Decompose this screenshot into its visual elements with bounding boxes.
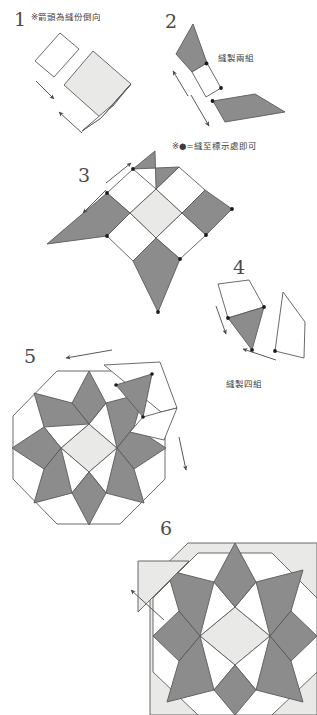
arrow-press-up	[59, 112, 82, 133]
patch-white-quad-right	[275, 292, 305, 358]
arrow-press-up-left	[243, 349, 276, 360]
step-number-5: 5	[24, 347, 36, 366]
step-number-3: 3	[78, 166, 90, 185]
arrow-attach-left	[66, 350, 112, 358]
seam-dot	[211, 99, 215, 103]
arrow-press-up	[173, 71, 188, 96]
seam-dot	[205, 62, 209, 66]
seam-dot	[105, 234, 109, 238]
seam-dot	[156, 310, 160, 314]
step-number-6: 6	[160, 519, 172, 538]
patch-dark-kite-bottom	[213, 94, 285, 122]
seam-dot	[114, 383, 118, 387]
note-sew-two-sets: 縫製兩組	[218, 53, 254, 64]
seam-dot	[204, 233, 208, 237]
seam-dot	[230, 207, 234, 211]
step-number-1: 1	[14, 10, 26, 29]
step-5-figure	[12, 350, 186, 525]
arrow-press-down	[36, 81, 54, 99]
step-2-figure	[173, 24, 285, 126]
arrow-press-down	[191, 95, 209, 126]
patch-light-square	[64, 51, 131, 118]
seam-dot	[131, 167, 135, 171]
instruction-sheet: 1 2 3 4 5 6 ※箭頭為縫份倒向 縫製兩組 ※●=縫至標示處即可 縫製四…	[0, 0, 317, 715]
arrow-press-down	[216, 306, 226, 334]
seam-dot	[219, 86, 223, 90]
step-6-figure	[131, 543, 317, 715]
patch-dark-kite-top	[176, 24, 207, 72]
quilt-diagram-canvas	[0, 0, 317, 715]
seam-dot	[273, 349, 277, 353]
note-seam-direction: ※箭頭為縫份倒向	[31, 12, 101, 23]
step-1-figure	[35, 33, 131, 133]
patch-white-rhombus	[35, 33, 79, 77]
seam-dot	[141, 415, 145, 419]
seam-dot	[178, 257, 182, 261]
step-number-2: 2	[165, 12, 177, 31]
step-number-4: 4	[233, 258, 245, 277]
step-3-figure	[47, 151, 234, 314]
seam-dot	[105, 191, 109, 195]
arrow-attach-down	[179, 437, 186, 470]
note-dot-marker: ※●=縫至標示處即可	[172, 141, 257, 152]
note-sew-four-sets: 縫製四組	[226, 379, 262, 390]
seam-dot	[150, 372, 154, 376]
seam-dot	[226, 316, 230, 320]
seam-dot	[262, 305, 266, 309]
step-4-figure	[216, 280, 305, 360]
